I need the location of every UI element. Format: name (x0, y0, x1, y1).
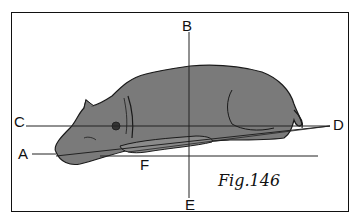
dog-body (55, 65, 302, 164)
label-B: B (182, 18, 192, 33)
label-C: C (14, 114, 25, 129)
dog-illustration (0, 0, 360, 224)
label-F: F (140, 157, 149, 172)
label-A: A (18, 146, 28, 161)
figure-caption: Fig.146 (218, 173, 280, 189)
label-D: D (333, 117, 344, 132)
label-E: E (185, 197, 195, 212)
